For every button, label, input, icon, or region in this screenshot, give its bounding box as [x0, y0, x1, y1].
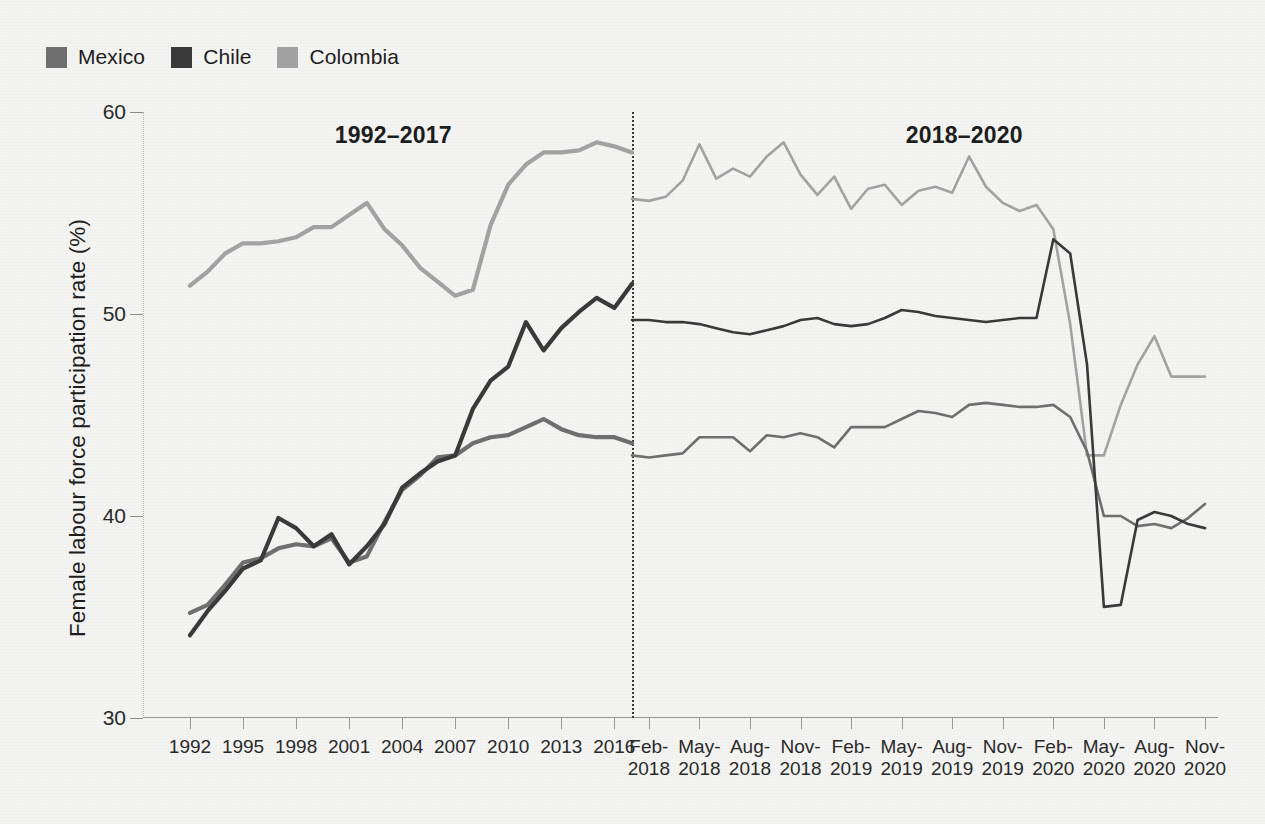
x-tick-year: 2019: [881, 758, 923, 780]
x-tick-mark-Feb-2019: [851, 718, 852, 729]
series-line-colombia-right: [632, 142, 1205, 455]
x-tick-month: Feb-: [830, 736, 872, 758]
x-tick-mark-1992: [190, 718, 191, 729]
x-tick-mark-2016: [614, 718, 615, 729]
legend-item-mexico[interactable]: Mexico: [46, 45, 145, 69]
x-tick-month: May-: [1083, 736, 1125, 758]
x-tick-year: 2019: [982, 758, 1024, 780]
x-tick-month: May-: [881, 736, 923, 758]
x-tick-mark-May-2020: [1104, 718, 1105, 729]
x-tick-year: 2018: [678, 758, 720, 780]
x-tick-mark-Aug-2018: [750, 718, 751, 729]
y-tick-label-50: 50: [103, 302, 126, 326]
series-line-mexico-right: [632, 403, 1205, 528]
x-tick-mark-Aug-2019: [952, 718, 953, 729]
legend-label-chile: Chile: [203, 45, 251, 69]
chart-series-svg: [143, 112, 1218, 718]
chart-legend: Mexico Chile Colombia: [46, 45, 425, 69]
x-tick-year: 2018: [729, 758, 771, 780]
x-tick-mark-2007: [455, 718, 456, 729]
x-tick-label-Feb-2018: Feb-2018: [628, 736, 670, 780]
x-tick-month: May-: [678, 736, 720, 758]
legend-item-colombia[interactable]: Colombia: [277, 45, 399, 69]
x-tick-mark-May-2019: [902, 718, 903, 729]
series-line-colombia-left: [190, 142, 632, 296]
x-tick-mark-May-2018: [699, 718, 700, 729]
x-tick-label-Feb-2019: Feb-2019: [830, 736, 872, 780]
x-tick-label-2001: 2001: [328, 736, 370, 758]
x-tick-month: Nov-: [779, 736, 821, 758]
x-tick-label-May-2019: May-2019: [881, 736, 923, 780]
x-tick-label-Aug-2018: Aug-2018: [729, 736, 771, 780]
x-tick-year: 2019: [931, 758, 973, 780]
x-tick-mark-2001: [349, 718, 350, 729]
y-axis-title: Female labour force participation rate (…: [65, 108, 91, 748]
x-tick-label-Nov-2018: Nov-2018: [779, 736, 821, 780]
x-tick-year: 2018: [628, 758, 670, 780]
x-tick-mark-Feb-2020: [1053, 718, 1054, 729]
x-tick-year: 2020: [1133, 758, 1175, 780]
x-tick-mark-1995: [243, 718, 244, 729]
x-tick-month: Aug-: [931, 736, 973, 758]
x-tick-label-Aug-2019: Aug-2019: [931, 736, 973, 780]
x-tick-mark-Aug-2020: [1154, 718, 1155, 729]
x-tick-label-2010: 2010: [487, 736, 529, 758]
x-tick-label-2007: 2007: [434, 736, 476, 758]
x-tick-month: Aug-: [1133, 736, 1175, 758]
series-line-mexico-left: [190, 419, 632, 613]
x-tick-label-May-2018: May-2018: [678, 736, 720, 780]
y-tick-mark-30: [130, 718, 143, 719]
x-tick-month: Aug-: [729, 736, 771, 758]
y-tick-mark-40: [130, 516, 143, 517]
x-tick-mark-1998: [296, 718, 297, 729]
x-tick-label-1998: 1998: [275, 736, 317, 758]
x-tick-label-Nov-2019: Nov-2019: [982, 736, 1024, 780]
legend-swatch-chile: [171, 47, 192, 68]
x-tick-label-1995: 1995: [222, 736, 264, 758]
x-tick-year: 2018: [779, 758, 821, 780]
y-tick-mark-50: [130, 314, 143, 315]
x-tick-month: Feb-: [1032, 736, 1074, 758]
x-tick-year: 2020: [1083, 758, 1125, 780]
y-tick-label-30: 30: [103, 706, 126, 730]
plot-area: 30405060 1992199519982001200420072010201…: [143, 112, 1218, 718]
legend-swatch-colombia: [277, 47, 298, 68]
legend-label-colombia: Colombia: [309, 45, 399, 69]
x-tick-year: 2020: [1184, 758, 1226, 780]
legend-swatch-mexico: [46, 47, 67, 68]
series-line-chile-right: [632, 239, 1205, 607]
legend-label-mexico: Mexico: [78, 45, 145, 69]
legend-item-chile[interactable]: Chile: [171, 45, 251, 69]
x-tick-mark-2013: [561, 718, 562, 729]
x-tick-label-2013: 2013: [540, 736, 582, 758]
x-tick-month: Feb-: [628, 736, 670, 758]
x-tick-label-2004: 2004: [381, 736, 423, 758]
x-tick-mark-2004: [402, 718, 403, 729]
x-tick-label-Aug-2020: Aug-2020: [1133, 736, 1175, 780]
x-tick-month: Nov-: [982, 736, 1024, 758]
x-tick-label-1992: 1992: [169, 736, 211, 758]
x-tick-mark-Nov-2018: [801, 718, 802, 729]
chart-page: Mexico Chile Colombia Female labour forc…: [0, 0, 1265, 824]
x-tick-year: 2020: [1032, 758, 1074, 780]
x-tick-mark-Feb-2018: [649, 718, 650, 729]
y-tick-label-40: 40: [103, 504, 126, 528]
x-tick-mark-2010: [508, 718, 509, 729]
series-line-chile-left: [190, 284, 632, 635]
x-tick-mark-Nov-2020: [1205, 718, 1206, 729]
x-tick-label-Feb-2020: Feb-2020: [1032, 736, 1074, 780]
y-tick-mark-60: [130, 112, 143, 113]
x-tick-label-Nov-2020: Nov-2020: [1184, 736, 1226, 780]
x-tick-label-May-2020: May-2020: [1083, 736, 1125, 780]
x-tick-year: 2019: [830, 758, 872, 780]
x-tick-month: Nov-: [1184, 736, 1226, 758]
x-tick-mark-Nov-2019: [1003, 718, 1004, 729]
y-tick-label-60: 60: [103, 100, 126, 124]
